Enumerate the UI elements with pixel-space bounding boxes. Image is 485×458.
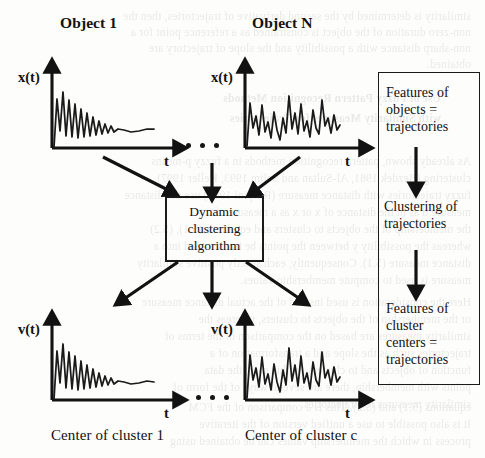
panel-step1-line-3: trajectories: [386, 118, 448, 135]
panel-step1-line-1: Features of: [386, 84, 449, 101]
panel-step3-line-4: trajectories: [386, 351, 448, 368]
arrow-objectN-to-algorithm: [256, 157, 300, 190]
ellipsis-top-plots: [186, 143, 219, 148]
ellipsis-bottom-plots: [196, 395, 229, 400]
arrow-algorithm-to-cluster1: [124, 262, 178, 299]
caption-cluster-c: Center of cluster c: [245, 427, 357, 445]
panel-step2-line-1: Clustering of: [384, 198, 458, 215]
process-box-line-2: clustering: [174, 220, 254, 237]
panel-step3-line-2: cluster: [386, 317, 423, 334]
panel-step3-line-3: centers =: [386, 334, 437, 351]
heading-object-n: Object N: [252, 14, 313, 32]
panel-step3-line-1: Features of: [386, 300, 449, 317]
process-box-line-1: Dynamic: [174, 203, 254, 220]
axis-label-y-objectN: x(t): [211, 69, 233, 86]
axis-label-y-cluster1: v(t): [18, 321, 40, 338]
dynamic-clustering-figure: similarity is determined by the second d…: [0, 0, 485, 458]
panel-step2-line-2: trajectories: [384, 215, 446, 232]
process-box-line-3: algorithm: [174, 237, 254, 254]
panel-step1-line-2: objects =: [386, 101, 437, 118]
axis-label-x-objectN: t: [345, 153, 350, 170]
arrow-object1-to-algorithm: [103, 157, 168, 190]
heading-object-1: Object 1: [60, 14, 117, 32]
caption-cluster-1: Center of cluster 1: [51, 427, 164, 445]
axis-label-x-cluster1: t: [164, 405, 169, 422]
arrow-algorithm-to-clusterc: [246, 262, 300, 299]
axis-label-y-clusterc: v(t): [211, 321, 233, 338]
axis-label-x-clusterc: t: [345, 405, 350, 422]
axis-label-y-object1: x(t): [18, 69, 40, 86]
axis-label-x-object1: t: [164, 153, 169, 170]
